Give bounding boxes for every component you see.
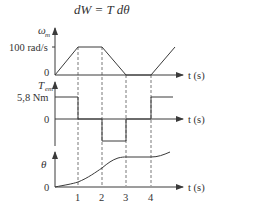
x-tick-2: 2 (99, 192, 104, 203)
x-tick-4: 4 (148, 192, 154, 203)
torque-ylabel: T (38, 79, 45, 91)
speed-level-label: 100 rad/s (9, 42, 48, 53)
angle-plot: θ 0 t (s) 1 2 3 4 (41, 152, 205, 203)
angle-x-label: t (s) (188, 182, 205, 194)
speed-plot: ω m 100 rad/s 0 t (s) (9, 24, 205, 82)
formula-title: dW = T dθ (74, 2, 130, 17)
speed-x-label: t (s) (188, 70, 205, 82)
torque-zero-label: 0 (44, 114, 49, 125)
x-tick-1: 1 (75, 192, 80, 203)
angle-ylabel: θ (41, 158, 47, 170)
x-tick-3: 3 (123, 192, 128, 203)
waveform-diagram: dW = T dθ ω m 100 rad/s 0 t (s) T em 5,8… (0, 0, 268, 205)
speed-ylabel-sub: m (45, 31, 50, 39)
angle-zero-label: 0 (44, 182, 49, 193)
torque-plot: T em 5,8 Nm 0 t (s) (17, 79, 205, 146)
dashed-guides (78, 47, 151, 186)
speed-zero-label: 0 (44, 67, 49, 78)
angle-curve (55, 152, 170, 187)
torque-level-label: 5,8 Nm (17, 92, 49, 103)
torque-x-label: t (s) (188, 114, 205, 126)
speed-curve (55, 47, 175, 75)
